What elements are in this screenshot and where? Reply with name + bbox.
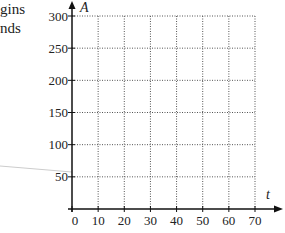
y-axis-title: A: [79, 0, 89, 15]
x-axis-title: t: [266, 187, 271, 202]
grid-lines: [72, 16, 255, 209]
y-tick-label: 100: [49, 137, 69, 152]
x-tick-label: 0: [72, 213, 79, 228]
tick-labels: 01020304050607050100150200250300: [49, 9, 262, 229]
x-tick-label: 70: [249, 213, 262, 228]
axes: [68, 1, 283, 213]
x-tick-label: 20: [118, 213, 131, 228]
x-axis-arrow-icon: [274, 206, 283, 213]
x-tick-label: 10: [92, 213, 105, 228]
y-tick-label: 300: [49, 9, 69, 24]
x-tick-label: 50: [196, 213, 209, 228]
y-tick-label: 250: [49, 41, 69, 56]
x-tick-label: 40: [170, 213, 183, 228]
x-tick-label: 60: [222, 213, 235, 228]
y-axis-arrow-icon: [69, 1, 76, 9]
y-tick-label: 50: [55, 169, 68, 184]
x-tick-label: 30: [144, 213, 157, 228]
y-tick-label: 150: [49, 105, 69, 120]
coordinate-grid-chart: 01020304050607050100150200250300 A t: [0, 0, 285, 233]
y-tick-label: 200: [49, 73, 69, 88]
